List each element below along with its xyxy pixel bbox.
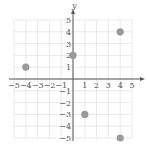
x-tick-label: 1 <box>82 81 87 90</box>
y-tick-label: −3 <box>59 110 71 119</box>
data-point <box>117 28 124 35</box>
x-tick-label: −4 <box>20 81 32 90</box>
x-tick-label: 3 <box>106 81 111 90</box>
data-point <box>117 134 124 141</box>
data-point <box>22 64 29 71</box>
y-axis-label: y <box>71 1 77 10</box>
x-tick-label: 5 <box>129 81 134 90</box>
x-axis-arrow-icon <box>140 77 145 81</box>
coordinate-plane: x y −5−4−3−2−112345 −5−4−3−2−112345 <box>0 0 147 145</box>
x-tick-label: −5 <box>8 81 20 90</box>
x-tick-label: 2 <box>94 81 99 90</box>
y-tick-label: 5 <box>66 16 71 25</box>
y-tick-label: −1 <box>59 87 71 96</box>
y-tick-label: 1 <box>66 63 71 72</box>
x-tick-labels: −5−4−3−2−112345 <box>8 81 134 90</box>
y-tick-label: 4 <box>66 28 71 37</box>
y-tick-label: 3 <box>66 40 71 49</box>
y-tick-label: −5 <box>59 134 71 143</box>
y-tick-label: −2 <box>59 99 71 108</box>
x-tick-label: −3 <box>32 81 44 90</box>
data-point <box>81 111 88 118</box>
y-tick-label: −4 <box>59 122 71 131</box>
x-tick-label: 4 <box>118 81 123 90</box>
x-tick-label: −2 <box>44 81 56 90</box>
data-point <box>69 52 76 59</box>
